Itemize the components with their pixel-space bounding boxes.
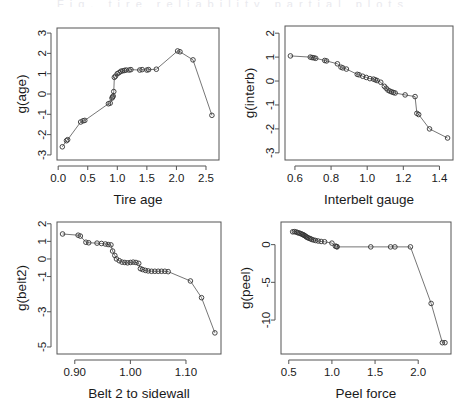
y-tick-label-top-left-1: -2 [36, 129, 48, 139]
y-tick-label-bottom-left-2: -1 [36, 271, 48, 281]
x-axis-title-bottom-left: Belt 2 to sidewall [88, 386, 189, 401]
x-tick-label-top-left-0: 0.0 [50, 172, 66, 184]
y-tick-label-top-right-4: 1 [264, 54, 276, 60]
x-tick-label-bottom-right-0: 0.5 [281, 366, 297, 378]
y-tick-label-top-left-6: 3 [36, 30, 48, 36]
y-tick-label-top-right-1: -2 [264, 124, 276, 134]
panel-top-left: 0.00.51.01.52.02.5-3-2-10123Tire ageg(ag… [14, 28, 220, 207]
y-tick-label-bottom-left-0: -5 [36, 342, 48, 352]
y-tick-label-top-left-4: 1 [36, 70, 48, 76]
x-tick-label-top-right-1: 0.8 [323, 172, 339, 184]
data-points-bottom-left [60, 232, 217, 336]
data-line-top-right [290, 56, 447, 138]
y-tick-label-bottom-left-4: 1 [36, 238, 48, 244]
x-tick-label-top-left-3: 1.5 [139, 172, 155, 184]
x-tick-label-bottom-right-2: 1.5 [367, 366, 383, 378]
data-points-top-left [60, 49, 214, 149]
x-axis-title-top-left: Tire age [113, 192, 162, 207]
y-tick-label-top-right-2: -1 [264, 100, 276, 110]
x-tick-label-top-left-2: 1.0 [109, 172, 125, 184]
panel-top-right: 0.60.81.01.21.4-3-2-1012Interbelt gaugeg… [242, 26, 454, 207]
plot-box-top-left [57, 28, 219, 160]
y-tick-label-bottom-left-5: 2 [36, 221, 48, 227]
x-tick-label-top-right-3: 1.2 [395, 172, 411, 184]
y-tick-label-bottom-right-1: -5 [260, 277, 272, 287]
x-tick-label-top-left-5: 2.5 [198, 172, 214, 184]
x-tick-label-top-right-0: 0.6 [287, 172, 303, 184]
x-tick-label-top-right-2: 1.0 [359, 172, 375, 184]
x-tick-label-bottom-left-0: 0.90 [64, 366, 86, 378]
y-tick-label-top-left-3: 0 [36, 91, 48, 97]
data-points-bottom-right [290, 229, 447, 345]
y-axis-title-top-left: g(age) [14, 74, 29, 113]
data-line-top-left [62, 51, 212, 147]
y-axis-title-bottom-left: g(belt2) [14, 265, 29, 311]
x-axis-title-top-right: Interbelt gauge [324, 192, 414, 207]
x-tick-label-top-left-1: 0.5 [80, 172, 96, 184]
y-tick-label-top-left-5: 2 [36, 50, 48, 56]
figure-canvas: 0.00.51.01.52.02.5-3-2-10123Tire ageg(ag… [0, 0, 466, 413]
x-axis-title-bottom-right: Peel force [336, 386, 397, 401]
panel-bottom-right: 0.51.01.52.0-10-50Peel forceg(peel) [238, 222, 452, 401]
y-tick-label-bottom-left-3: 0 [36, 256, 48, 262]
panel-bottom-left: 0.901.001.10-5-3-1012Belt 2 to sidewallg… [14, 221, 222, 401]
y-tick-label-top-right-5: 2 [264, 30, 276, 36]
y-tick-label-bottom-right-2: 0 [260, 241, 272, 247]
y-tick-label-top-left-0: -3 [36, 150, 48, 160]
x-tick-label-bottom-right-3: 2.0 [410, 366, 426, 378]
data-point [445, 136, 450, 141]
y-tick-label-top-left-2: -1 [36, 109, 48, 119]
plot-box-bottom-left [57, 222, 221, 354]
plot-box-top-right [285, 26, 453, 160]
four-panel-partial-effect-figure: 0.00.51.01.52.02.5-3-2-10123Tire ageg(ag… [0, 0, 466, 413]
x-tick-label-top-left-4: 2.0 [168, 172, 184, 184]
data-points-top-right [288, 54, 450, 141]
y-tick-label-bottom-right-0: -10 [260, 312, 272, 329]
data-line-bottom-left [63, 234, 215, 333]
y-axis-title-top-right: g(interb) [242, 68, 257, 118]
y-axis-title-bottom-right: g(peel) [238, 267, 253, 309]
x-tick-label-top-right-4: 1.4 [431, 172, 448, 184]
y-tick-label-top-right-0: -3 [264, 148, 276, 158]
x-tick-label-bottom-left-2: 1.10 [175, 366, 197, 378]
x-tick-label-bottom-left-1: 1.00 [119, 366, 141, 378]
x-tick-label-bottom-right-1: 1.0 [324, 366, 340, 378]
y-tick-label-top-right-3: 0 [264, 78, 276, 84]
y-tick-label-bottom-left-1: -3 [36, 307, 48, 317]
